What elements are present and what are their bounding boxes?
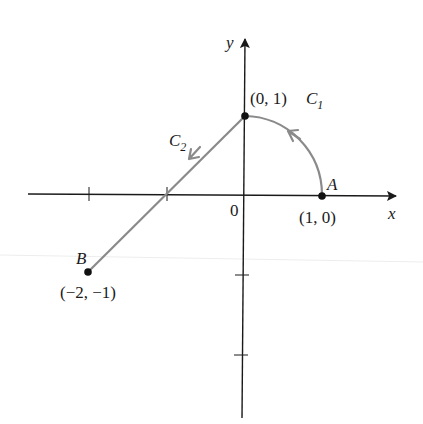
point-a-coords: (1, 0) [299,208,336,227]
origin-label: 0 [230,201,239,220]
x-axis-label: x [387,204,396,223]
point-top-coords: (0, 1) [250,89,287,108]
c2-direction-arrow-icon [189,147,200,159]
point-b-coords: (−2, −1) [60,283,116,302]
figure: x y 0 C1 C2 A [0,0,423,424]
y-axis-label: y [224,33,234,52]
point-top: (0, 1) [241,89,287,120]
c1-label: C1 [306,89,323,112]
point-b-label: B [76,249,87,268]
artifact-line [0,255,423,262]
x-axis: x [28,187,396,223]
point-a: A (1, 0) [299,175,338,227]
point-a-label: A [326,175,338,194]
y-axis: y [224,33,249,418]
c2-label: C2 [169,131,186,154]
